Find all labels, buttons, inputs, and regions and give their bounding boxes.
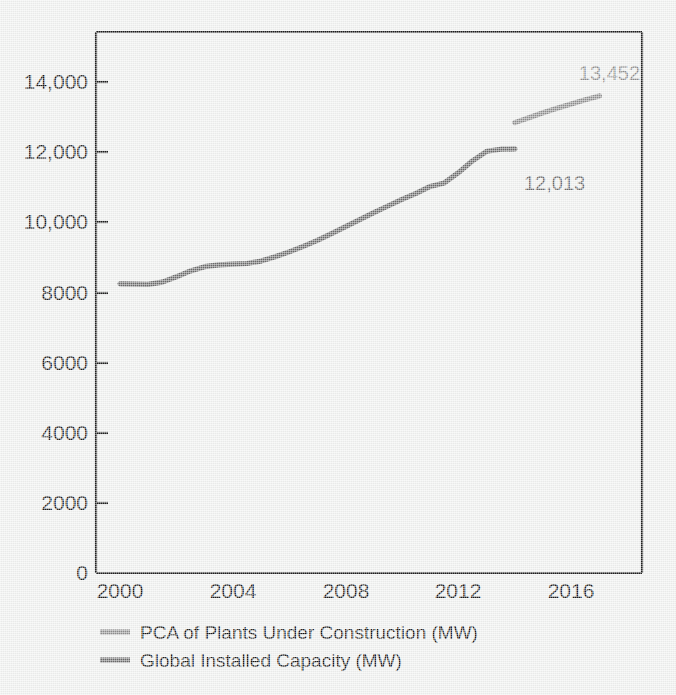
x-tick-label-2008: 2008 [323,579,370,602]
x-tick-label-2016: 2016 [548,579,595,602]
y-tick-label-0: 0 [76,561,88,584]
y-tick-label-2000: 2000 [41,491,88,514]
y-axis-tick-labels: 14,000 12,000 10,000 8000 6000 4000 2000… [24,70,88,584]
value-annotations: 13,452 12,013 [524,62,640,194]
value-label-global-12013: 12,013 [524,172,585,194]
chart-figure: 14,000 12,000 10,000 8000 6000 4000 2000… [0,0,676,695]
series-line-pca-plants-under-construction [515,96,600,123]
chart-legend: PCA of Plants Under Construction (MW) Gl… [100,622,478,671]
y-tick-label-8000: 8000 [41,281,88,304]
x-axis-tick-labels: 2000 2004 2008 2012 2016 [97,579,595,602]
y-tick-label-6000: 6000 [41,351,88,374]
legend-label-global: Global Installed Capacity (MW) [140,650,402,671]
y-axis-ticks [96,82,108,503]
x-tick-label-2000: 2000 [97,579,144,602]
x-tick-label-2004: 2004 [210,579,257,602]
plot-frame [96,32,642,573]
legend-label-pca: PCA of Plants Under Construction (MW) [140,622,478,643]
y-tick-label-4000: 4000 [41,421,88,444]
y-tick-label-10000: 10,000 [24,210,88,233]
line-chart: 14,000 12,000 10,000 8000 6000 4000 2000… [0,0,676,695]
x-tick-label-2012: 2012 [435,579,482,602]
series-line-global-installed-capacity [120,149,515,285]
y-tick-label-12000: 12,000 [24,140,88,163]
y-tick-label-14000: 14,000 [24,70,88,93]
value-label-pca-13452: 13,452 [579,62,640,84]
